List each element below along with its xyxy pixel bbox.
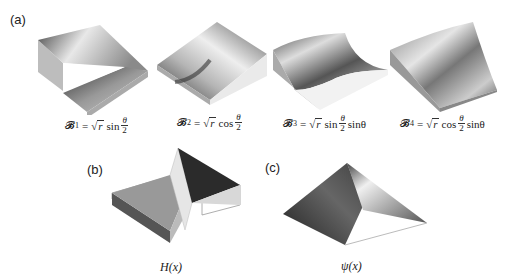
surface-psi — [275, 160, 455, 250]
caption-b4: 𝓑4 = √r cos θ2 sinθ — [400, 114, 485, 133]
surface-b2 — [155, 20, 270, 115]
caption-heaviside: H(x) — [160, 260, 182, 275]
panel-label-a: (a) — [10, 12, 26, 27]
caption-b2: 𝓑2 = √r cos θ2 — [177, 113, 244, 132]
surface-b3 — [270, 30, 390, 115]
surface-b1 — [30, 15, 155, 115]
caption-psi: ψ(x) — [341, 259, 362, 274]
caption-b1: 𝓑1 = √r sin θ2 — [65, 116, 130, 135]
surface-heaviside — [110, 145, 250, 250]
panel-label-b: (b) — [87, 162, 103, 177]
surface-b4 — [385, 20, 510, 115]
caption-b3: 𝓑3 = √r sin θ2 sinθ — [283, 114, 366, 133]
